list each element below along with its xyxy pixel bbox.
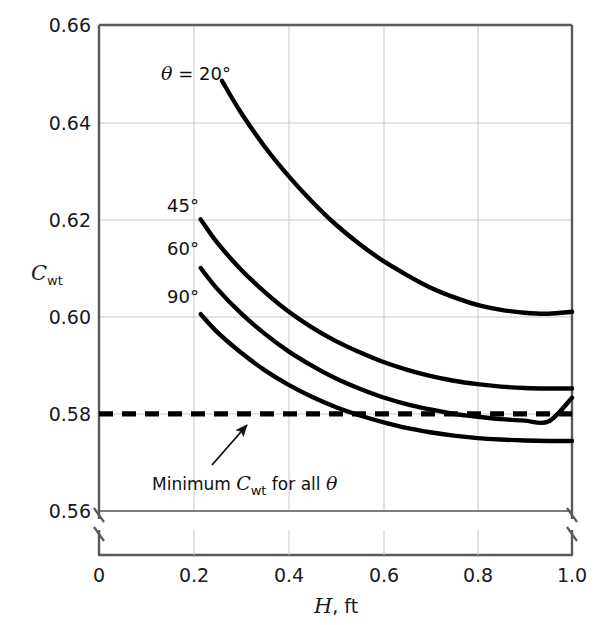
ytick-label-4: 0.58: [49, 403, 91, 425]
curve-label-90: 90°: [167, 286, 199, 307]
x-axis-title-symbol: H: [313, 594, 333, 618]
curve-label-60: 60°: [167, 238, 199, 259]
annotation-symbol: C: [236, 472, 251, 494]
annotation-subscript: wt: [251, 483, 267, 498]
ytick-label-1: 0.64: [49, 112, 91, 134]
ytick-label-5: 0.56: [49, 500, 91, 522]
x-axis-title: H, ft: [313, 594, 358, 618]
y-axis-title-subscript: wt: [47, 273, 63, 288]
xtick-label-0: 0: [93, 564, 105, 586]
theta-symbol: θ: [161, 62, 173, 84]
x-axis-title-text: H, ft: [313, 594, 358, 618]
x-axis-title-units: , ft: [332, 595, 358, 617]
theta-20-value: = 20°: [173, 63, 231, 84]
xtick-label-3: 0.6: [369, 564, 399, 586]
curve-label-45: 45°: [167, 195, 199, 216]
xtick-label-2: 0.4: [274, 564, 304, 586]
annotation-suffix: for all: [266, 474, 325, 494]
xtick-label-4: 0.8: [463, 564, 493, 586]
curve-label-theta-20: θ = 20°: [161, 62, 231, 84]
ytick-label-2: 0.62: [49, 209, 91, 231]
annotation-prefix: Minimum: [152, 474, 236, 494]
chart-figure: 0.66 0.64 0.62 0.60 0.58 0.56 Cwt 0 0.2 …: [0, 0, 602, 625]
annotation-theta: θ: [326, 472, 338, 494]
ytick-label-0: 0.66: [49, 14, 91, 36]
ytick-label-3: 0.60: [49, 306, 91, 328]
xtick-label-5: 1.0: [557, 564, 587, 586]
xtick-label-1: 0.2: [179, 564, 209, 586]
y-axis-title-symbol: C: [31, 261, 47, 285]
